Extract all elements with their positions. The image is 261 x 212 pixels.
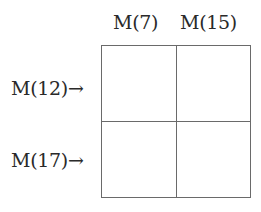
cell-r0-c1 xyxy=(177,46,250,122)
row-label-m12: M(12)→ xyxy=(11,75,84,101)
row-label-m17: M(17)→ xyxy=(11,147,84,173)
cell-r1-c0 xyxy=(102,122,177,197)
cell-r0-c0 xyxy=(102,46,177,122)
cell-r1-c1 xyxy=(177,122,250,197)
column-label-m15: M(15) xyxy=(180,9,237,35)
grid xyxy=(101,45,251,198)
column-label-m7: M(7) xyxy=(113,9,158,35)
